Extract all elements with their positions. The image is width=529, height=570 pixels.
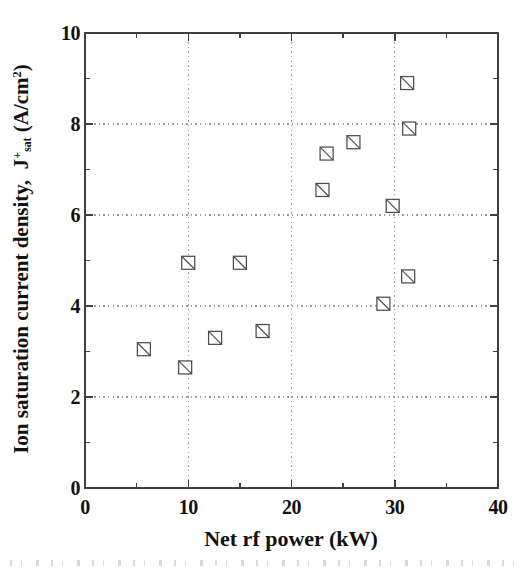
- scatter-figure: 0246810 010203040 Ion saturation current…: [0, 0, 529, 570]
- y-axis-title-superscript-plus: +: [10, 152, 24, 159]
- y-axis-title-text: Ion saturation current density, J: [9, 159, 33, 454]
- x-tick-label: 30: [385, 496, 404, 519]
- x-tick-label: 0: [80, 496, 90, 519]
- y-axis-title: Ion saturation current density, J+sat (A…: [9, 64, 34, 454]
- y-tick-label: 10: [61, 22, 80, 45]
- y-tick-label: 4: [71, 295, 81, 318]
- y-axis-title-subscript-sat: sat: [21, 137, 34, 151]
- x-axis-title: Net rf power (kW): [204, 526, 378, 552]
- y-axis-title-unit-superscript: 2: [10, 71, 24, 77]
- x-tick-label: 10: [179, 496, 198, 519]
- y-axis-title-unit-close: ): [9, 64, 33, 71]
- y-tick-label: 6: [71, 204, 81, 227]
- x-tick-label: 20: [282, 496, 301, 519]
- y-tick-label: 2: [71, 386, 81, 409]
- y-tick-label: 0: [71, 477, 81, 500]
- cropped-caption-fragment: [10, 560, 518, 566]
- y-axis-title-unit: (A/cm: [9, 77, 33, 137]
- y-tick-label: 8: [71, 113, 81, 136]
- x-tick-label: 40: [489, 496, 508, 519]
